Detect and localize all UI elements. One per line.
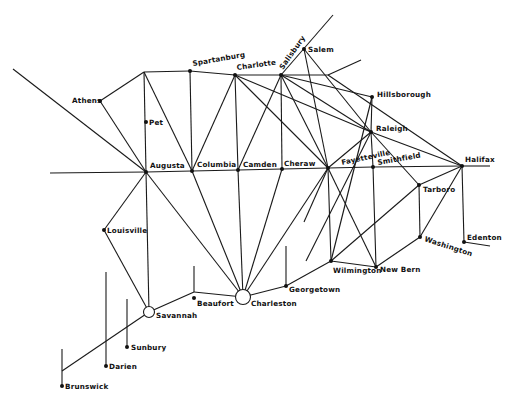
salem-label: Salem: [308, 45, 334, 54]
route-line: [304, 49, 328, 168]
route-line: [146, 171, 192, 172]
route-line: [192, 75, 235, 171]
augusta-label: Augusta: [150, 161, 185, 170]
tarboro-node-icon: [417, 183, 421, 187]
route-lines: [13, 15, 490, 386]
columbia-label: Columbia: [197, 160, 236, 169]
salisbury-label: Salisbury: [277, 34, 307, 72]
hillsborough-label: Hillsborough: [377, 90, 431, 99]
route-line: [104, 172, 146, 230]
route-line: [100, 101, 146, 172]
wilmington-node-icon: [329, 259, 333, 263]
route-line: [238, 75, 281, 170]
camden-label: Camden: [243, 160, 277, 169]
route-line: [464, 242, 490, 246]
columbia-node-icon: [190, 169, 194, 173]
route-line: [149, 292, 194, 312]
edenton-node-icon: [462, 240, 466, 244]
route-line: [420, 166, 462, 237]
route-line: [462, 166, 464, 242]
charlotte-label: Charlotte: [236, 58, 277, 72]
route-line: [235, 75, 238, 170]
louisville-label: Louisville: [107, 226, 147, 235]
route-line: [146, 172, 149, 312]
route-line: [281, 75, 371, 132]
route-line: [419, 185, 420, 237]
route-line: [235, 75, 371, 132]
route-line: [328, 60, 361, 75]
georgetown-label: Georgetown: [289, 285, 340, 294]
route-line: [376, 237, 420, 267]
georgetown-node-icon: [284, 284, 288, 288]
route-line: [238, 170, 243, 297]
route-line: [190, 71, 235, 75]
route-line: [144, 71, 190, 72]
halifax-node-icon: [460, 164, 464, 168]
charlotte-node-icon: [233, 73, 237, 77]
route-line: [238, 169, 282, 170]
washington-node-icon: [418, 235, 422, 239]
brunswick-node-icon: [60, 384, 64, 388]
savannah-label: Savannah: [156, 311, 197, 320]
route-line: [371, 132, 373, 167]
route-line: [243, 169, 282, 297]
route-line: [328, 167, 373, 168]
beaufort-node-icon: [192, 296, 196, 300]
darien-label: Darien: [109, 362, 137, 371]
fayetteville-node-icon: [326, 166, 330, 170]
route-line: [281, 75, 282, 169]
route-line: [373, 167, 376, 267]
charleston-label: Charleston: [251, 299, 297, 308]
sunbury-node-icon: [125, 345, 129, 349]
halifax-label: Halifax: [465, 155, 495, 164]
spartanburg-node-icon: [188, 69, 192, 73]
route-line: [328, 168, 376, 267]
louisville-node-icon: [102, 228, 106, 232]
raleigh-node-icon: [369, 130, 373, 134]
tarboro-label: Tarboro: [423, 185, 455, 194]
route-line: [281, 75, 328, 168]
savannah-hub-icon: [144, 307, 155, 318]
route-line: [328, 168, 331, 261]
pet-node-icon: [144, 120, 148, 124]
route-line: [192, 171, 243, 297]
camden-node-icon: [236, 168, 240, 172]
route-line: [281, 75, 372, 97]
route-line: [100, 72, 144, 101]
hillsborough-node-icon: [370, 95, 374, 99]
route-line: [304, 49, 371, 132]
augusta-node-icon: [144, 170, 148, 174]
edenton-label: Edenton: [467, 233, 502, 242]
pet-label: Pet: [149, 118, 164, 127]
route-line: [328, 75, 462, 166]
town-labels: AthensPetAugustaSpartanburgCharlotteSali…: [65, 34, 502, 391]
route-line: [304, 168, 328, 222]
route-line: [373, 166, 462, 167]
route-line: [192, 170, 238, 171]
newbern-label: New Bern: [380, 265, 421, 274]
beaufort-label: Beaufort: [197, 299, 234, 308]
cheraw-label: Cheraw: [284, 159, 316, 168]
darien-node-icon: [104, 364, 108, 368]
route-line: [419, 166, 462, 185]
athens-label: Athens: [72, 96, 102, 105]
brunswick-label: Brunswick: [65, 382, 108, 391]
route-line: [282, 168, 328, 169]
smithfield-node-icon: [371, 165, 375, 169]
charleston-hub-icon: [236, 290, 251, 305]
salisbury-node-icon: [279, 73, 283, 77]
route-network-diagram: AthensPetAugustaSpartanburgCharlotteSali…: [0, 0, 508, 401]
raleigh-label: Raleigh: [376, 124, 408, 133]
wilmington-label: Wilmington: [333, 266, 382, 275]
route-line: [50, 172, 146, 173]
sunbury-label: Sunbury: [131, 343, 166, 352]
route-line: [286, 261, 331, 286]
salem-node-icon: [302, 47, 306, 51]
route-line: [190, 71, 192, 171]
route-line: [331, 97, 372, 261]
